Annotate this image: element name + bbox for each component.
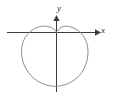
y-axis-arrowhead-icon xyxy=(53,15,59,21)
x-axis-label: x xyxy=(101,26,105,35)
y-axis-label: y xyxy=(57,4,61,13)
figure-canvas xyxy=(0,0,116,98)
cardioid-curve xyxy=(22,26,89,86)
cardioid-figure: x y xyxy=(0,0,116,98)
